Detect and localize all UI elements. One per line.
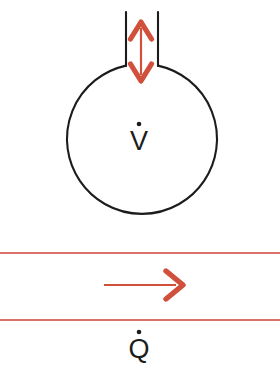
heat-flow-arrow (104, 271, 183, 299)
volumetric-flow-arrow (131, 22, 152, 81)
figure-root: V Q (0, 0, 280, 369)
heat-flow-channel (0, 253, 280, 320)
heat-flow-label-symbol: Q (128, 334, 149, 364)
volumetric-flow-label-symbol: V (130, 126, 148, 156)
diagram-canvas: V Q (0, 0, 280, 369)
volumetric-flow-label: V (130, 122, 148, 156)
heat-flow-label: Q (128, 330, 149, 364)
